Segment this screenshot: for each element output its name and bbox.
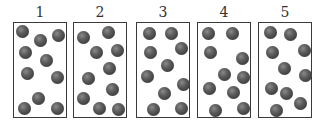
panel-label-4: 4 bbox=[197, 4, 251, 20]
particle bbox=[203, 82, 216, 95]
particle bbox=[236, 52, 249, 65]
particle bbox=[40, 54, 53, 67]
panel-label-3: 3 bbox=[136, 4, 190, 20]
container-box-2 bbox=[73, 22, 127, 118]
particle bbox=[52, 29, 65, 42]
particle bbox=[278, 62, 291, 75]
particle bbox=[226, 27, 239, 40]
container-box-3 bbox=[136, 22, 190, 118]
particle bbox=[280, 87, 293, 100]
particle bbox=[141, 70, 154, 83]
particle bbox=[111, 44, 124, 57]
particle bbox=[202, 27, 215, 40]
particle bbox=[90, 46, 103, 59]
particle bbox=[204, 46, 217, 59]
particle bbox=[77, 92, 90, 105]
particle bbox=[103, 62, 116, 75]
particle bbox=[143, 27, 156, 40]
particle bbox=[34, 34, 47, 47]
particle bbox=[106, 83, 119, 96]
container-box-1 bbox=[13, 22, 67, 118]
particle bbox=[102, 26, 115, 39]
panel-label-1: 1 bbox=[13, 4, 67, 20]
particle bbox=[51, 71, 64, 84]
particle bbox=[175, 42, 188, 55]
particle bbox=[265, 82, 278, 95]
particle bbox=[298, 44, 311, 57]
particle bbox=[264, 26, 277, 39]
particle bbox=[82, 72, 95, 85]
particle bbox=[144, 46, 157, 59]
particle bbox=[77, 31, 90, 44]
particle bbox=[284, 28, 297, 41]
particle bbox=[16, 25, 29, 38]
particle bbox=[165, 27, 178, 40]
particle bbox=[93, 102, 106, 115]
particle bbox=[21, 67, 34, 80]
particle bbox=[266, 46, 279, 59]
particle bbox=[112, 103, 125, 116]
particle bbox=[237, 102, 250, 115]
particle bbox=[177, 78, 190, 91]
particle bbox=[161, 59, 174, 72]
container-box-4 bbox=[197, 22, 251, 118]
container-box-5 bbox=[258, 22, 312, 118]
particle bbox=[209, 104, 222, 117]
particle bbox=[227, 86, 240, 99]
particle bbox=[19, 46, 32, 59]
particle bbox=[158, 87, 171, 100]
particle bbox=[218, 68, 231, 81]
particle bbox=[294, 97, 307, 110]
particle bbox=[18, 102, 31, 115]
particle bbox=[270, 104, 283, 117]
particle bbox=[237, 71, 250, 84]
particle bbox=[51, 102, 64, 115]
particle bbox=[175, 102, 188, 115]
panel-label-2: 2 bbox=[73, 4, 127, 20]
particle bbox=[147, 103, 160, 116]
particle bbox=[299, 69, 312, 82]
particle bbox=[32, 92, 45, 105]
panel-label-5: 5 bbox=[258, 4, 312, 20]
